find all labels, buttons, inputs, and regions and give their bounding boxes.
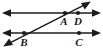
geometry-figure: A D B C bbox=[0, 0, 103, 54]
point-C-dot bbox=[77, 31, 81, 35]
point-B-label: B bbox=[19, 36, 27, 48]
point-A-label: A bbox=[59, 15, 67, 27]
upper-parallel-line-left-arrowhead bbox=[2, 9, 11, 17]
lower-parallel-line-left-arrowhead bbox=[2, 29, 11, 37]
upper-parallel-line-right-arrowhead bbox=[92, 9, 101, 17]
lower-parallel-line bbox=[2, 29, 101, 37]
geometry-canvas: A D B C bbox=[0, 0, 103, 54]
point-B-dot bbox=[22, 31, 26, 35]
lower-parallel-line-right-arrowhead bbox=[92, 29, 101, 37]
upper-parallel-line bbox=[2, 9, 101, 17]
point-D-label: D bbox=[73, 15, 82, 27]
point-C-label: C bbox=[75, 36, 83, 48]
